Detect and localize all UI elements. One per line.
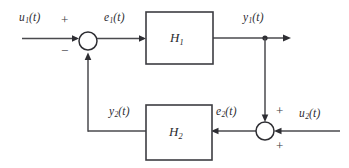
diagram-vector-layer	[0, 0, 349, 168]
signal-label-y1-arg: (t)	[252, 11, 263, 23]
signal-label-u2: u2(t)	[299, 108, 320, 120]
signal-label-y2-sub: 2	[115, 110, 119, 119]
signal-label-e1-sub: 1	[110, 16, 114, 25]
signal-label-y1-sub: 1	[249, 16, 253, 25]
signal-label-y2-arg: (t)	[118, 105, 129, 117]
signal-label-y2-base: y	[109, 105, 114, 117]
sign-minus-y2: −	[61, 44, 68, 57]
block-label-h1: H1	[170, 31, 184, 44]
signal-label-y2: y2(t)	[109, 106, 130, 118]
signal-label-e2-base: e	[216, 105, 221, 117]
summing-junction-right	[256, 122, 274, 140]
block-label-h2-sub: 2	[178, 132, 182, 141]
signal-label-y1: y1(t)	[243, 12, 264, 24]
block-label-h1-base: H	[170, 30, 179, 45]
summing-junction-left	[79, 32, 97, 50]
sign-plus-u1: +	[61, 13, 68, 26]
block-diagram-canvas: u1(t) + − e1(t) H1 y1(t) y2(t) H2 e2(t) …	[0, 0, 349, 168]
signal-label-u1: u1(t)	[19, 12, 40, 24]
arrowhead-u1-into-sum	[72, 35, 79, 42]
arrowhead-y1-output	[283, 35, 291, 42]
signal-label-y1-base: y	[243, 11, 248, 23]
signal-label-u2-sub: 2	[305, 112, 309, 121]
signal-label-e2-sub: 2	[222, 110, 226, 119]
signal-label-u1-arg: (t)	[29, 11, 40, 23]
signal-label-e2-arg: (t)	[225, 105, 236, 117]
signal-label-u2-arg: (t)	[309, 107, 320, 119]
arrowhead-e1-into-h1	[139, 35, 146, 42]
arrowhead-y2-into-sum-left	[85, 53, 92, 61]
block-label-h2-base: H	[169, 124, 178, 139]
block-label-h2: H2	[169, 125, 183, 138]
signal-label-u1-sub: 1	[25, 16, 29, 25]
arrowhead-u2-into-sum	[274, 128, 282, 135]
signal-label-e1-base: e	[104, 11, 109, 23]
block-label-h1-sub: 1	[179, 38, 183, 47]
signal-label-e2: e2(t)	[216, 106, 237, 118]
signal-label-e1-arg: (t)	[113, 11, 124, 23]
sign-plus-y1: +	[276, 104, 283, 117]
sign-plus-u2: +	[276, 139, 283, 152]
arrowhead-y1-into-sum-right	[262, 115, 269, 123]
signal-label-e1: e1(t)	[104, 12, 125, 24]
